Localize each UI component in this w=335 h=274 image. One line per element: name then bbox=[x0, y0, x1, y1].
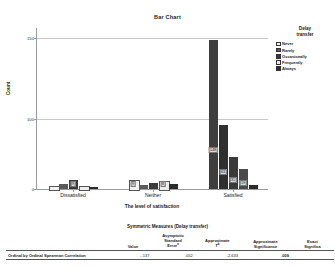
legend-label-never: Never bbox=[282, 41, 293, 46]
legend-swatch-rarely bbox=[276, 48, 281, 53]
x-axis-label: The level of satisfaction bbox=[36, 204, 268, 209]
legend-swatch-never bbox=[276, 42, 281, 47]
symmetric-measures-panel: Symmetric Measures (Delay transfer) Valu… bbox=[0, 222, 335, 274]
bar-satisfied-never[interactable]: 148 bbox=[209, 40, 218, 189]
bar-label-neither-never: 9 bbox=[131, 181, 136, 187]
bar-chart-panel: Bar Chart 150 100 0 9 bbox=[0, 0, 335, 222]
x-tick-neither: Neither bbox=[145, 192, 161, 198]
table-cell-ase: .052 bbox=[151, 251, 194, 260]
table-header-approx-sig: Approximate Significance bbox=[240, 234, 291, 251]
y-tick-100: 100 bbox=[27, 117, 34, 122]
bar-group-dissatisfied: 9 Dissatisfied bbox=[43, 28, 103, 189]
bar-label-satisfied-occasionally: 31 bbox=[230, 177, 237, 183]
bar-dissatisfied-rarely[interactable] bbox=[59, 184, 68, 189]
legend-title: Delay transfer bbox=[276, 26, 334, 37]
legend-item-always[interactable]: Always bbox=[276, 66, 334, 71]
table-row: Ordinal by Ordinal Spearman Correlation … bbox=[6, 251, 334, 260]
bar-groups: 9 Dissatisfied 9 bbox=[37, 28, 268, 189]
bar-dissatisfied-occasionally[interactable]: 9 bbox=[69, 180, 78, 189]
legend-item-never[interactable]: Never bbox=[276, 41, 334, 46]
bar-neither-always[interactable] bbox=[169, 184, 178, 189]
table-header-sig-l2: Significance bbox=[254, 244, 278, 249]
chart-title: Bar Chart bbox=[0, 14, 335, 20]
x-tick-satisfied: Satisfied bbox=[223, 192, 242, 198]
table-header-ase-l2: Standard bbox=[164, 238, 181, 243]
table-cell-value: -.137 bbox=[114, 251, 151, 260]
table-header-ase: Asymptotic Standard Errora bbox=[151, 234, 194, 251]
legend-label-rarely: Rarely bbox=[282, 48, 294, 53]
bar-dissatisfied-always[interactable] bbox=[89, 187, 98, 189]
legend-label-occasionally: Occasionally bbox=[282, 54, 307, 59]
bar-satisfied-occasionally[interactable]: 31 bbox=[229, 157, 238, 189]
legend-item-frequently[interactable]: Frequently bbox=[276, 60, 334, 65]
bar-neither-frequently[interactable]: 8 bbox=[159, 181, 168, 189]
bar-group-neither: 9 8 Neither bbox=[123, 28, 183, 189]
legend: Delay transfer Never Rarely Occasionally… bbox=[276, 26, 334, 72]
table-cell-row-label: Ordinal by Ordinal Spearman Correlation bbox=[6, 251, 114, 260]
table-header-approx-t: Approximate Tb bbox=[195, 234, 240, 251]
y-tick-150: 150 bbox=[27, 36, 34, 41]
bar-label-dissatisfied-occasionally: 9 bbox=[71, 181, 76, 187]
bar-dissatisfied-frequently[interactable] bbox=[79, 186, 88, 189]
bar-label-satisfied-rarely: 63 bbox=[220, 169, 227, 175]
bar-neither-never[interactable]: 9 bbox=[129, 180, 138, 189]
table-cell-approx-sig: .009 bbox=[240, 251, 291, 260]
table-cell-approx-t: -2.633 bbox=[195, 251, 240, 260]
legend-swatch-frequently bbox=[276, 60, 281, 65]
bar-dissatisfied-never[interactable] bbox=[49, 186, 58, 189]
bar-neither-rarely[interactable] bbox=[139, 185, 148, 189]
bar-satisfied-frequently[interactable]: 19 bbox=[239, 169, 248, 189]
table-header-ase-l3: Error bbox=[167, 244, 177, 249]
legend-swatch-occasionally bbox=[276, 54, 281, 59]
table-header-exact-l2: Significa bbox=[304, 244, 321, 249]
x-tick-dissatisfied: Dissatisfied bbox=[60, 192, 86, 198]
bar-satisfied-rarely[interactable]: 63 bbox=[219, 125, 228, 189]
y-axis-label: Count bbox=[6, 82, 11, 95]
legend-swatch-always bbox=[276, 66, 281, 71]
y-tick-mark-0 bbox=[34, 189, 36, 190]
bar-label-satisfied-frequently: 19 bbox=[240, 180, 247, 186]
table-header-rowlabel bbox=[6, 234, 114, 251]
table-header-exact-sig: Exact Significa bbox=[291, 234, 334, 251]
legend-label-always: Always bbox=[282, 66, 296, 71]
table-header-row: Value Asymptotic Standard Errora Approxi… bbox=[6, 234, 334, 251]
y-tick-mark-100 bbox=[34, 119, 36, 120]
legend-item-rarely[interactable]: Rarely bbox=[276, 48, 334, 53]
table-cell-exact-sig bbox=[291, 251, 334, 260]
legend-item-occasionally[interactable]: Occasionally bbox=[276, 54, 334, 59]
plot-area: 150 100 0 9 bbox=[36, 28, 268, 190]
symmetric-measures-table: Value Asymptotic Standard Errora Approxi… bbox=[6, 234, 334, 260]
bar-label-satisfied-never: 148 bbox=[209, 147, 218, 153]
legend-title-line1: Delay bbox=[299, 26, 311, 31]
legend-title-line2: transfer bbox=[296, 32, 313, 37]
bar-label-neither-frequently: 8 bbox=[161, 181, 166, 187]
bar-group-satisfied: 148 63 31 19 Satisfied bbox=[203, 28, 263, 189]
table-header-value: Value bbox=[114, 234, 151, 251]
table-title: Symmetric Measures (Delay transfer) bbox=[0, 224, 335, 229]
y-tick-mark-150 bbox=[34, 38, 36, 39]
legend-label-frequently: Frequently bbox=[282, 60, 302, 65]
bar-satisfied-always[interactable] bbox=[249, 185, 258, 189]
